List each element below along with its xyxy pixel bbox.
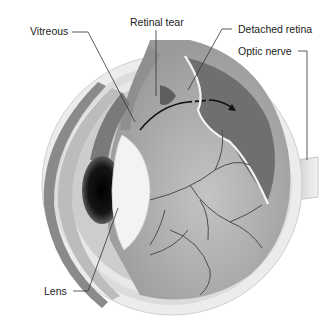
label-vitreous: Vitreous [30, 25, 68, 37]
label-lens: Lens [44, 285, 67, 297]
label-retinal-tear: Retinal tear [130, 16, 184, 28]
label-optic-nerve: Optic nerve [238, 45, 292, 57]
optic-nerve-leader [298, 51, 307, 160]
label-detached-retina: Detached retina [238, 23, 312, 35]
eye-diagram: Vitreous Retinal tear Detached retina Op… [0, 0, 329, 327]
